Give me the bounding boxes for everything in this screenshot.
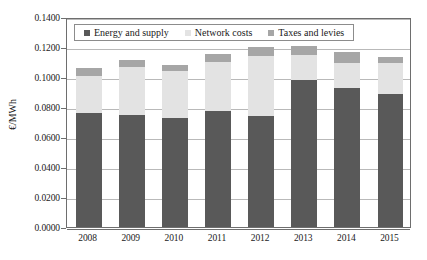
x-tick-label-2009: 2009 xyxy=(121,233,140,243)
legend-swatch-icon xyxy=(84,30,90,36)
bar-segment-taxes-2012[interactable] xyxy=(248,47,274,55)
bar-stack-2009[interactable] xyxy=(119,60,145,227)
gridline-0.1400 xyxy=(67,19,410,20)
y-tick-label: 0.0600 xyxy=(14,133,60,143)
x-tick-label-2010: 2010 xyxy=(165,233,184,243)
bar-segment-network-2011[interactable] xyxy=(205,62,231,111)
y-tick-label: 0.1400 xyxy=(14,13,60,23)
bar-segment-network-2008[interactable] xyxy=(76,76,102,113)
bar-segment-taxes-2010[interactable] xyxy=(162,65,188,72)
bar-segment-energy-2008[interactable] xyxy=(76,113,102,227)
bar-segment-network-2015[interactable] xyxy=(378,63,404,94)
legend-label: Taxes and levies xyxy=(278,27,344,38)
bar-segment-network-2009[interactable] xyxy=(119,67,145,115)
y-tick-label: 0.0000 xyxy=(14,223,60,233)
bar-segment-network-2012[interactable] xyxy=(248,56,274,116)
x-tick-label-2012: 2012 xyxy=(251,233,270,243)
x-tick-label-2013: 2013 xyxy=(294,233,313,243)
legend-label: Network costs xyxy=(195,27,253,38)
y-tick-mark xyxy=(61,198,66,199)
bar-segment-energy-2012[interactable] xyxy=(248,116,274,227)
plot-area xyxy=(66,18,411,228)
y-tick-mark xyxy=(61,228,66,229)
y-tick-mark xyxy=(61,108,66,109)
x-tick-label-2008: 2008 xyxy=(78,233,97,243)
bar-stack-2010[interactable] xyxy=(162,65,188,227)
chart-figure: €/MWh 0.00000.02000.04000.06000.08000.10… xyxy=(0,0,427,260)
bar-segment-energy-2013[interactable] xyxy=(291,80,317,227)
bar-stack-2015[interactable] xyxy=(378,57,404,227)
y-tick-mark xyxy=(61,48,66,49)
bar-segment-energy-2011[interactable] xyxy=(205,111,231,227)
bar-stack-2008[interactable] xyxy=(76,68,102,227)
legend-entry-0[interactable]: Energy and supply xyxy=(84,27,169,38)
bar-segment-energy-2014[interactable] xyxy=(334,88,360,227)
y-tick-label: 0.0800 xyxy=(14,103,60,113)
y-tick-mark xyxy=(61,138,66,139)
bar-segment-taxes-2008[interactable] xyxy=(76,68,102,76)
y-tick-mark xyxy=(61,78,66,79)
bar-stack-2012[interactable] xyxy=(248,47,274,227)
gridline-0.1200 xyxy=(67,49,410,50)
bar-segment-network-2014[interactable] xyxy=(334,63,360,89)
bar-segment-taxes-2011[interactable] xyxy=(205,54,231,62)
x-tick-label-2015: 2015 xyxy=(380,233,399,243)
gridline-0.0000 xyxy=(67,229,410,230)
bar-segment-network-2010[interactable] xyxy=(162,71,188,118)
bar-stack-2011[interactable] xyxy=(205,54,231,227)
bar-segment-energy-2009[interactable] xyxy=(119,115,145,227)
y-tick-label: 0.1200 xyxy=(14,43,60,53)
y-tick-label: 0.1000 xyxy=(14,73,60,83)
bar-segment-network-2013[interactable] xyxy=(291,55,317,80)
y-tick-mark xyxy=(61,18,66,19)
y-tick-mark xyxy=(61,168,66,169)
x-tick-label-2011: 2011 xyxy=(208,233,226,243)
bar-segment-taxes-2013[interactable] xyxy=(291,46,317,55)
bar-segment-energy-2010[interactable] xyxy=(162,118,188,227)
chart-legend: Energy and supplyNetwork costsTaxes and … xyxy=(74,24,354,41)
legend-entry-2[interactable]: Taxes and levies xyxy=(268,27,344,38)
bar-stack-2013[interactable] xyxy=(291,46,317,227)
legend-swatch-icon xyxy=(268,30,274,36)
legend-label: Energy and supply xyxy=(94,27,169,38)
bar-stack-2014[interactable] xyxy=(334,52,360,227)
y-tick-label: 0.0200 xyxy=(14,193,60,203)
x-tick-label-2014: 2014 xyxy=(337,233,356,243)
bar-segment-taxes-2009[interactable] xyxy=(119,60,145,68)
bar-segment-energy-2015[interactable] xyxy=(378,94,404,228)
legend-entry-1[interactable]: Network costs xyxy=(185,27,253,38)
y-tick-label: 0.0400 xyxy=(14,163,60,173)
legend-swatch-icon xyxy=(185,30,191,36)
bar-segment-taxes-2014[interactable] xyxy=(334,52,360,63)
